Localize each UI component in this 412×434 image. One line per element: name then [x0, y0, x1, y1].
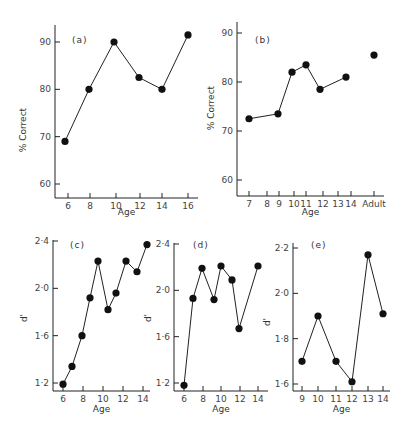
- x-axis-label: Age: [302, 207, 320, 217]
- series-line: [302, 255, 383, 382]
- y-axis-label: % Correct: [206, 85, 216, 130]
- data-point: [332, 358, 339, 365]
- data-point: [288, 69, 295, 76]
- data-point: [298, 358, 305, 365]
- data-point: [94, 258, 101, 265]
- data-point: [348, 378, 355, 385]
- data-point: [217, 262, 224, 269]
- data-point: [180, 382, 187, 389]
- data-point: [364, 251, 371, 258]
- data-point: [135, 74, 142, 81]
- data-point: [104, 306, 111, 313]
- data-point: [316, 86, 323, 93]
- y-tick-label: 1·2: [156, 378, 170, 388]
- x-tick-label: 8: [87, 201, 93, 211]
- x-tick-label: 12: [346, 394, 357, 404]
- x-axis-label: Age: [333, 404, 351, 414]
- y-tick-label: 80: [40, 84, 52, 94]
- data-point: [59, 381, 66, 388]
- x-tick-label: 10: [312, 394, 324, 404]
- y-axis-label: % Correct: [18, 107, 28, 152]
- data-point: [86, 294, 93, 301]
- x-tick-label: 16: [182, 201, 194, 211]
- panel-label: (d): [193, 240, 209, 250]
- x-tick-label: 14: [252, 394, 264, 404]
- x-tick-label: 12: [117, 394, 128, 404]
- x-tick-label: 8: [80, 394, 86, 404]
- panel-a: 607080906810121416(a)Age% Correct: [18, 25, 198, 217]
- y-axis-label: d': [143, 314, 153, 322]
- data-point: [78, 332, 85, 339]
- x-tick-label: 14: [345, 199, 357, 209]
- panel-b: 607080907891011121314Adult(b)Age% Correc…: [206, 22, 386, 217]
- y-tick-label: 1·6: [275, 379, 290, 389]
- x-tick-label: 13: [362, 394, 373, 404]
- data-point: [370, 51, 377, 58]
- x-tick-label: 11: [330, 394, 341, 404]
- x-tick-label: 10: [215, 394, 227, 404]
- x-axis-label: Age: [118, 207, 136, 217]
- y-tick-label: 70: [222, 126, 234, 136]
- y-tick-label: 2·0: [35, 283, 50, 293]
- figure-canvas: 607080906810121416(a)Age% Correct 607080…: [0, 0, 412, 434]
- x-tick-label: 14: [377, 394, 389, 404]
- x-tick-label: 9: [276, 199, 282, 209]
- y-tick-label: 2·0: [156, 285, 171, 295]
- y-tick-label: 2·4: [156, 239, 171, 249]
- panel-d: 1·21·62·02·468101214(d)Aged': [143, 239, 268, 414]
- data-point: [210, 296, 217, 303]
- data-point: [158, 86, 165, 93]
- data-point: [61, 138, 68, 145]
- data-point: [342, 74, 349, 81]
- data-point: [379, 310, 386, 317]
- series-line: [65, 35, 188, 141]
- data-point: [122, 258, 129, 265]
- y-tick-label: 90: [40, 37, 52, 47]
- x-tick-label: 6: [60, 394, 66, 404]
- data-point: [184, 31, 191, 38]
- x-tick-label: 12: [134, 201, 145, 211]
- x-tick-label: 6: [65, 201, 71, 211]
- y-tick-label: 2·0: [275, 288, 290, 298]
- y-tick-label: 1·6: [35, 331, 50, 341]
- x-tick-label: 10: [288, 199, 300, 209]
- data-point: [85, 86, 92, 93]
- x-tick-label: 7: [246, 199, 252, 209]
- data-point: [235, 325, 242, 332]
- y-tick-label: 1·6: [156, 332, 171, 342]
- x-tick-label: 8: [264, 199, 270, 209]
- data-point: [314, 312, 321, 319]
- x-tick-label: 6: [181, 394, 187, 404]
- y-tick-label: 70: [40, 132, 52, 142]
- series-line: [249, 65, 346, 119]
- series-line: [184, 266, 258, 385]
- data-point: [254, 262, 261, 269]
- y-tick-label: 60: [222, 175, 234, 185]
- panel-label: (c): [70, 240, 85, 250]
- data-point: [112, 289, 119, 296]
- y-axis-label: d': [262, 318, 272, 326]
- data-point: [110, 38, 117, 45]
- panel-label: (a): [72, 35, 88, 45]
- series-line: [63, 245, 147, 385]
- y-tick-label: 1·8: [275, 334, 290, 344]
- y-tick-label: 2·4: [35, 236, 50, 246]
- data-point: [302, 61, 309, 68]
- x-axis-label: Age: [93, 404, 111, 414]
- x-tick-label: 12: [234, 394, 245, 404]
- panel-e: 1·61·82·02·291011121314(e)Aged': [262, 240, 390, 414]
- data-point: [189, 295, 196, 302]
- data-point: [68, 363, 75, 370]
- x-tick-label: 14: [137, 394, 149, 404]
- y-tick-label: 2·2: [275, 243, 289, 253]
- x-tick-label: 14: [156, 201, 168, 211]
- y-tick-label: 60: [40, 179, 52, 189]
- panel-label: (e): [311, 240, 327, 250]
- y-tick-label: 90: [222, 28, 234, 38]
- x-axis-label: Age: [212, 404, 230, 414]
- data-point: [274, 110, 281, 117]
- data-point: [133, 268, 140, 275]
- x-tick-label: 8: [200, 394, 206, 404]
- x-tick-label: 9: [299, 394, 305, 404]
- y-tick-label: 1·2: [35, 378, 49, 388]
